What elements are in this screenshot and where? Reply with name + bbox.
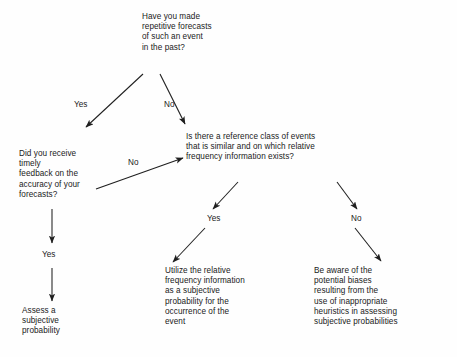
edge-feedback-no xyxy=(96,158,183,189)
edge-label-reference-yes: Yes xyxy=(207,214,220,223)
edge-label-reference-no: No xyxy=(351,214,361,223)
node-reference-class-question: Is there a reference class of events tha… xyxy=(186,132,410,163)
edge-label-feedback-yes: Yes xyxy=(42,250,55,259)
edge-label-root-yes: Yes xyxy=(74,100,87,109)
edge-reference-yes xyxy=(213,182,238,209)
edge-root-yes xyxy=(86,74,143,127)
edge-reference-no xyxy=(337,182,357,209)
edge-label-feedback-no: No xyxy=(128,158,138,167)
flowchart-canvas: Have you made repetitive forecasts of su… xyxy=(0,0,457,357)
edge-label-root-no: No xyxy=(164,100,174,109)
edge-no-to-bias xyxy=(355,228,381,261)
node-outcome-utilize: Utilize the relative frequency informati… xyxy=(165,266,277,327)
node-feedback-question: Did you receive timely feedback on the a… xyxy=(19,149,105,200)
node-outcome-bias: Be aware of the potential biases resulti… xyxy=(314,266,438,327)
edge-yes-to-utilize xyxy=(173,228,205,262)
edge-root-no xyxy=(160,74,185,124)
node-root-question: Have you made repetitive forecasts of su… xyxy=(142,12,260,53)
node-outcome-assess: Assess a subjective probability xyxy=(22,306,102,337)
